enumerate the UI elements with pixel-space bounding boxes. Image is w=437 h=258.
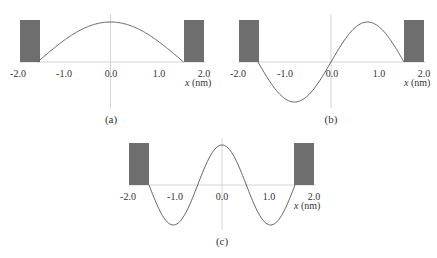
left-barrier [20,20,40,62]
tick-label: 0.0 [326,68,339,79]
left-barrier [239,20,259,62]
panel-b: -2.0 -1.0 0.0 1.0 2.0 x (nm) (b) [230,14,430,126]
right-barrier [184,20,204,62]
tick-label: 0.0 [105,68,118,79]
tick-label: 1.0 [153,68,166,79]
panel-caption: (c) [216,235,229,248]
tick-label: -2.0 [230,68,246,79]
right-barrier [404,20,424,62]
tick-label: -2.0 [120,191,136,202]
tick-label: 0.0 [216,191,229,202]
panel-a: -2.0 -1.0 0.0 1.0 2.0 x (nm) (a) [10,14,211,126]
wavefunction-figure: -2.0 -1.0 0.0 1.0 2.0 x (nm) (a) -2.0 -1… [0,0,437,258]
tick-label: -1.0 [167,191,183,202]
tick-label: -1.0 [56,68,72,79]
tick-label: -1.0 [277,68,293,79]
panel-caption: (b) [325,113,338,126]
x-axis-unit: (nm) [192,77,211,89]
x-axis-unit: (nm) [411,77,430,89]
tick-label: 1.0 [373,68,386,79]
tick-label: -2.0 [10,68,26,79]
x-axis-var: x [293,200,299,211]
x-axis-var: x [184,77,190,88]
left-barrier [129,143,149,185]
panel-caption: (a) [105,113,118,126]
panel-c: -2.0 -1.0 0.0 1.0 2.0 x (nm) (c) [120,138,320,248]
right-barrier [294,143,314,185]
x-axis-unit: (nm) [301,200,320,212]
x-axis-var: x [403,77,409,88]
tick-label: 1.0 [263,191,276,202]
